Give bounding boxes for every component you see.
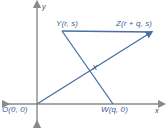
point-label-W: W(q, 0) — [101, 106, 128, 114]
y-axis-label: y — [42, 3, 46, 11]
point-label-Z: Z(r + q, s) — [116, 20, 152, 28]
point-label-Y: Y(r, s) — [56, 20, 78, 28]
segment-YW — [62, 31, 113, 104]
point-label-O: O(0, 0) — [2, 106, 28, 114]
point-label-X: X — [92, 64, 97, 72]
x-axis-label: x — [155, 107, 159, 115]
segment-YZ — [62, 31, 152, 32]
geometry-figure: Y(r, s) Z(r + q, s) O(0, 0) W(q, 0) X y … — [0, 0, 168, 129]
